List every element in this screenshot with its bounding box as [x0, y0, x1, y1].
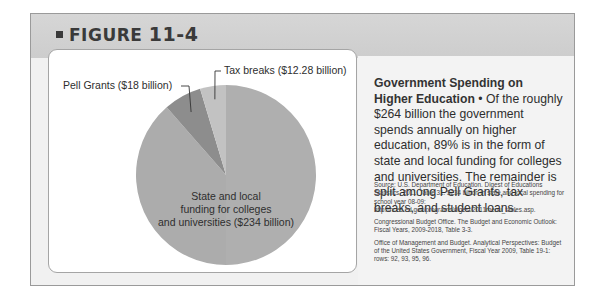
slice-shading — [226, 85, 316, 265]
sources: Source: U.S. Department of Education. Di… — [374, 181, 566, 268]
source-note: Source: U.S. Department of Education. Di… — [374, 181, 566, 214]
figure-title: FIGURE 11-4 — [56, 23, 198, 45]
source-note: Congressional Budget Office. The Budget … — [374, 218, 566, 235]
caption-bullet: • — [478, 92, 482, 106]
figure-number: 11-4 — [149, 23, 199, 45]
pie-chart: State and localfunding for collegesand u… — [49, 50, 357, 273]
chart-panel: State and localfunding for collegesand u… — [48, 49, 357, 273]
slice-label-tax-breaks: Tax breaks ($12.28 billion) — [224, 64, 347, 76]
slice-label-pell: Pell Grants ($18 billion) — [63, 79, 172, 91]
square-bullet-icon — [56, 31, 63, 38]
source-note: Office of Management and Budget. Analyti… — [374, 239, 566, 264]
figure-frame: FIGURE 11-4 State and localfunding for c… — [30, 13, 575, 286]
figure-label: FIGURE — [69, 25, 142, 45]
caption-panel: Government Spending on Higher Education … — [358, 56, 574, 285]
